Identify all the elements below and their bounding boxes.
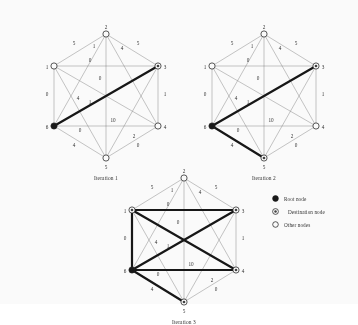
node-label-1: 1 (124, 208, 127, 214)
edge-weight-6-4: 10 (268, 117, 274, 123)
edge-weight-6-1: 0 (46, 91, 49, 97)
legend-label-other-nodes: Other nodes (282, 222, 310, 228)
legend-row-other-nodes: Other nodes (268, 218, 358, 231)
edge-weight-2-5: 0 (177, 219, 180, 225)
graph-iteration-3: 5510400100140142123456 (96, 152, 272, 318)
edge-4-5 (184, 270, 236, 302)
node-4[interactable] (155, 123, 161, 129)
node-label-4: 4 (322, 124, 325, 130)
edge-weight-1-4: 1 (89, 99, 92, 105)
edge-2-3 (184, 178, 236, 210)
edge-weight-3-5: 2 (291, 133, 294, 139)
edge-weight-1-5: 0 (157, 271, 160, 277)
node-2[interactable] (181, 175, 187, 181)
edge-weight-2-4: 4 (279, 45, 282, 51)
edge-weight-4-5: 0 (215, 286, 218, 292)
edge-weight-1-3: 0 (89, 57, 92, 63)
node-label-4: 4 (164, 124, 167, 130)
node-6-root[interactable] (129, 267, 135, 273)
edge-weight-1-4: 1 (247, 99, 250, 105)
destination-node-marker (268, 208, 282, 215)
edge-weight-4-5: 0 (137, 142, 140, 148)
edge-weight-1-5: 0 (79, 127, 82, 133)
edge-weight-1-2: 5 (231, 40, 234, 46)
legend: Root node Destination node Other nodes (268, 192, 358, 231)
node-label-3: 3 (242, 208, 245, 214)
edge-weight-3-6: 4 (77, 95, 80, 101)
node-2[interactable] (103, 31, 109, 37)
node-4[interactable] (313, 123, 319, 129)
edge-weight-3-6: 4 (235, 95, 238, 101)
node-5-destination-dot (183, 301, 186, 304)
edge-weight-5-6: 4 (151, 286, 154, 292)
edge-weight-3-6: 4 (155, 239, 158, 245)
node-label-1: 1 (204, 64, 207, 70)
edge-weight-1-2: 5 (151, 184, 154, 190)
node-4-destination-dot (235, 269, 238, 272)
node-label-2: 2 (263, 24, 266, 30)
edge-weight-1-4: 1 (167, 243, 170, 249)
node-label-1: 1 (46, 64, 49, 70)
edge-weight-6-4: 10 (110, 117, 116, 123)
edge-1-2 (54, 34, 106, 66)
node-label-2: 2 (183, 168, 186, 174)
edge-weight-2-4: 4 (199, 189, 202, 195)
graph-iteration-2: 5510400100140142123456 (176, 8, 352, 174)
edge-weight-3-5: 2 (211, 277, 214, 283)
edge-weight-6-1: 0 (204, 91, 207, 97)
node-3-destination-dot (315, 65, 318, 68)
node-label-6: 6 (204, 124, 207, 130)
other-node-marker (268, 221, 282, 228)
edge-weight-2-3: 5 (215, 184, 218, 190)
node-1-destination-dot (131, 209, 134, 212)
edge-weight-1-2: 5 (73, 40, 76, 46)
edge-1-2 (212, 34, 264, 66)
edge-weight-2-3: 5 (137, 40, 140, 46)
node-3-destination-dot (157, 65, 160, 68)
edge-weight-1-5: 0 (237, 127, 240, 133)
node-1[interactable] (51, 63, 57, 69)
node-2[interactable] (261, 31, 267, 37)
node-label-4: 4 (242, 268, 245, 274)
node-label-6: 6 (124, 268, 127, 274)
edge-weight-1-3: 0 (167, 201, 170, 207)
edge-weight-2-5: 0 (257, 75, 260, 81)
node-label-6: 6 (46, 124, 49, 130)
graph-panel-iteration-3: 5510400100140142123456Iteration 3 (96, 152, 272, 318)
edge-weight-2-6: 1 (93, 43, 96, 49)
graph-panel-iteration-2: 5510400100140142123456Iteration 2 (176, 8, 352, 174)
root-node-marker (268, 195, 282, 202)
node-6-root[interactable] (51, 123, 57, 129)
graph-panel-iteration-1: 5510400100140142123456Iteration 1 (18, 8, 194, 174)
legend-row-destination-node: Destination node (268, 205, 358, 218)
edge-weight-3-4: 1 (242, 235, 245, 241)
legend-row-root-node: Root node (268, 192, 358, 205)
edge-weight-2-6: 1 (251, 43, 254, 49)
edge-weight-2-5: 0 (99, 75, 102, 81)
edge-weight-2-6: 1 (171, 187, 174, 193)
edge-weight-4-5: 0 (295, 142, 298, 148)
node-1[interactable] (209, 63, 215, 69)
node-label-3: 3 (322, 64, 325, 70)
edge-weight-5-6: 4 (73, 142, 76, 148)
edge-weight-3-5: 2 (133, 133, 136, 139)
graph-iteration-1: 5510400100140142123456 (18, 8, 194, 174)
caption-iteration-3: Iteration 3 (96, 319, 272, 325)
edge-2-3 (264, 34, 316, 66)
edge-weight-5-6: 4 (231, 142, 234, 148)
edge-2-3 (106, 34, 158, 66)
node-6-root[interactable] (209, 123, 215, 129)
edge-weight-2-3: 5 (295, 40, 298, 46)
edge-1-2 (132, 178, 184, 210)
edge-weight-2-4: 4 (121, 45, 124, 51)
node-label-2: 2 (105, 24, 108, 30)
edge-weight-3-4: 1 (164, 91, 167, 97)
legend-label-destination-node: Destination node (282, 209, 325, 215)
edge-weight-3-4: 1 (322, 91, 325, 97)
node-3-destination-dot (235, 209, 238, 212)
edge-weight-6-1: 0 (124, 235, 127, 241)
edge-weight-6-4: 10 (188, 261, 194, 267)
node-label-3: 3 (164, 64, 167, 70)
edge-weight-1-3: 0 (247, 57, 250, 63)
